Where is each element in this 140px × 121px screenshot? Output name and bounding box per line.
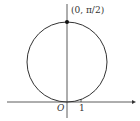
point-marker [65, 20, 69, 24]
diagram-canvas [0, 0, 140, 121]
point-label: (0, π/2) [71, 6, 104, 15]
tick-label: 1 [79, 104, 85, 113]
origin-label: O [57, 104, 64, 113]
x-axis-arrow-icon [132, 100, 136, 104]
